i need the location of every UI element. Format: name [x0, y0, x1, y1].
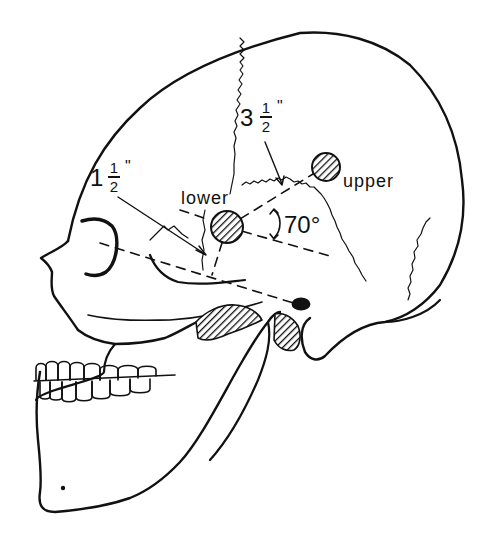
mental-foramen	[61, 486, 65, 490]
lower-burr-hole-marker	[211, 211, 243, 243]
upper-distance-denominator: 2	[262, 119, 270, 134]
hatched-region-right	[274, 314, 300, 351]
upper-label: upper	[343, 172, 394, 190]
orbit	[82, 219, 117, 275]
face-profile	[41, 241, 205, 344]
upper-distance-fraction: 1 2	[260, 100, 272, 134]
lambdoid-suture	[408, 218, 430, 300]
ear-canal	[293, 299, 309, 309]
arrow-3-5in	[265, 142, 284, 185]
occlusal-line	[34, 375, 175, 381]
lower-distance-denominator: 2	[110, 179, 118, 194]
lower-distance-numerator: 1	[110, 160, 118, 175]
skull-diagram	[0, 0, 489, 553]
upper-distance-whole: 3	[240, 106, 253, 130]
frontal-process-line	[202, 210, 205, 270]
lower-distance-unit: "	[125, 158, 131, 176]
upper-burr-hole-marker	[312, 153, 340, 181]
cranium-outline	[68, 32, 463, 359]
ramus	[210, 322, 269, 460]
sphenoid-suture	[150, 226, 188, 240]
lower-distance-fraction: 1 2	[108, 160, 120, 194]
upper-distance-numerator: 1	[262, 100, 270, 115]
upper-distance-unit: "	[277, 98, 283, 116]
lower-distance-whole: 1	[90, 166, 103, 190]
zygomatic-arch	[150, 255, 245, 284]
angle-arc	[270, 209, 280, 239]
lower-label: lower	[181, 189, 229, 207]
hatched-region-left	[196, 305, 262, 340]
angle-label: 70°	[284, 213, 320, 237]
